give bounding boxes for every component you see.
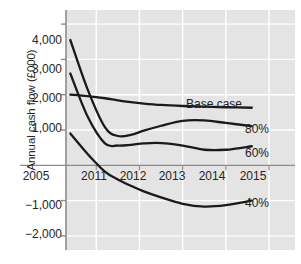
y-tick-label: −1,000 bbox=[10, 198, 62, 212]
y-tick-label: 3,000 bbox=[10, 62, 62, 76]
series-label-60: 60% bbox=[245, 146, 269, 160]
x-tick-label-2012: 2012 bbox=[113, 169, 153, 183]
y-tick-label: 2,000 bbox=[10, 91, 62, 105]
x-tick-label-2011: 2011 bbox=[74, 169, 114, 183]
y-tick-label: 4,000 bbox=[10, 33, 62, 47]
series-label-40: 40% bbox=[245, 196, 269, 210]
cash-flow-line-chart: Annual cash flow (£000) 4,000 3,000 2,00… bbox=[0, 0, 301, 264]
x-tick-label-2014: 2014 bbox=[192, 169, 232, 183]
x-tick-label-2015: 2015 bbox=[233, 169, 273, 183]
series-label-80: 80% bbox=[245, 122, 269, 136]
y-tick-label-group: 4,000 3,000 2,000 1,000 −1,000 −2,000 bbox=[6, 0, 62, 264]
y-tick-label: 1,000 bbox=[10, 121, 62, 135]
y-tick-label: −2,000 bbox=[10, 227, 62, 241]
x-tick-label-2013: 2013 bbox=[152, 169, 192, 183]
x-origin-label-2005: 2005 bbox=[14, 169, 58, 183]
series-label-base-case: Base case bbox=[186, 97, 242, 111]
